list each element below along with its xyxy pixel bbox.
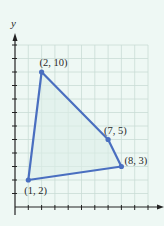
vertex-point: [39, 69, 44, 74]
vertex-point: [26, 177, 31, 182]
vertex-point: [119, 164, 124, 169]
vertex-label: (1, 2): [24, 185, 47, 197]
vertex-label: (7, 5): [104, 125, 127, 137]
vertex-label: (8, 3): [124, 155, 147, 167]
y-axis-label: y: [10, 17, 16, 29]
coordinate-plane: y (2, 10)(7, 5)(8, 3)(1, 2): [0, 0, 164, 226]
vertex-label: (2, 10): [40, 57, 68, 69]
x-axis-arrow-icon: [157, 205, 164, 210]
vertex-point: [106, 137, 111, 142]
y-axis-arrow-icon: [13, 33, 18, 41]
